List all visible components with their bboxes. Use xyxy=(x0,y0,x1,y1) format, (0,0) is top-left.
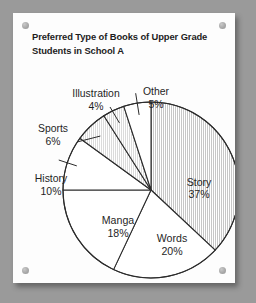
pie-value-history: 10% xyxy=(41,186,62,197)
pie-value-story: 37% xyxy=(188,188,210,200)
poster-card: Preferred Type of Books of Upper Grade S… xyxy=(13,13,235,283)
pie-label-manga: Manga xyxy=(102,214,134,226)
pie-label-story: Story xyxy=(187,176,212,188)
pie-label-history: History xyxy=(35,173,68,184)
pie-chart: Story37%Words20%Manga18%History10%Sports… xyxy=(13,13,235,283)
pie-label-illustration: Illustration xyxy=(72,88,120,99)
pie-value-words: 20% xyxy=(161,245,183,257)
pie-value-illustration: 4% xyxy=(88,101,103,112)
pie-label-sports: Sports xyxy=(38,123,68,134)
pie-value-manga: 18% xyxy=(107,227,129,239)
pie-label-words: Words xyxy=(157,232,187,244)
pie-label-other: Other xyxy=(143,86,170,97)
pie-value-sports: 6% xyxy=(45,136,60,147)
pie-value-other: 5% xyxy=(148,99,163,110)
